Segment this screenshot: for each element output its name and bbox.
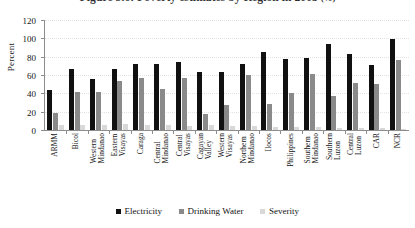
y-axis-tick-label: 0 — [32, 127, 37, 136]
x-axis-label-cell: ARMM — [44, 133, 65, 195]
bar — [145, 125, 150, 131]
bar — [252, 126, 257, 130]
x-axis-label-cell: Philippines — [280, 133, 301, 195]
y-axis-tick-label: 40 — [27, 90, 36, 99]
bar-group — [366, 20, 387, 130]
chart-title-text: Figure 5.6: Poverty estimates by Region … — [80, 0, 318, 3]
bar — [80, 125, 85, 131]
bar — [401, 129, 406, 130]
bar-group — [66, 20, 87, 130]
bar — [47, 90, 52, 130]
x-axis-label: CagayanValley — [197, 133, 212, 159]
bar — [209, 125, 214, 130]
bar — [359, 128, 364, 130]
bar — [316, 127, 321, 130]
chart-title: Figure 5.6: Poverty estimates by Region … — [0, 0, 415, 3]
y-axis-tick-label: 20 — [27, 108, 36, 117]
x-axis-label: NCR — [394, 133, 402, 148]
x-axis-label: SouthernMindanao — [305, 133, 320, 163]
x-axis-label-cell: SouthernLuzon — [323, 133, 344, 195]
x-axis-label-cell: CAR — [366, 133, 387, 195]
bar — [289, 93, 294, 130]
x-axis-label: ARMM — [51, 133, 59, 157]
legend-label: Electricity — [125, 206, 162, 216]
bar — [176, 62, 181, 130]
bar — [59, 125, 64, 131]
bar — [96, 92, 101, 131]
plot-area: 020406080100120 — [44, 20, 409, 131]
bar-group — [109, 20, 130, 130]
x-axis-label-cell: NorthernMindanao — [237, 133, 258, 195]
bar — [240, 64, 245, 130]
chart-legend: ElectricityDrinking WaterSeverity — [0, 206, 415, 216]
bar — [182, 78, 187, 130]
y-axis-tick: 0 — [41, 130, 45, 131]
legend-swatch-icon — [179, 209, 184, 214]
bar — [139, 78, 144, 130]
x-axis-label-cell: CentralVisayas — [173, 133, 194, 195]
x-axis-labels: ARMMBicolWesternMindanaoEasternVisayasCa… — [44, 133, 409, 195]
bar — [267, 104, 272, 130]
bar — [90, 79, 95, 130]
bar-group — [388, 20, 409, 130]
x-axis-label-cell: Bicol — [65, 133, 86, 195]
x-axis-label-cell: CentralMindanao — [151, 133, 172, 195]
x-axis-label: WesternMindanao — [90, 133, 105, 163]
bar — [203, 114, 208, 131]
bar — [396, 60, 401, 130]
bar-group — [345, 20, 366, 130]
bar — [337, 128, 342, 130]
legend-swatch-icon — [116, 209, 121, 214]
x-axis-label: Bicol — [72, 133, 80, 149]
bar-group — [195, 20, 216, 130]
x-axis-label: SouthernLuzon — [326, 133, 341, 160]
bar — [160, 89, 165, 130]
bar — [353, 83, 358, 130]
bar — [331, 96, 336, 130]
bar — [294, 127, 299, 130]
x-axis-label-cell: SouthernMindanao — [302, 133, 323, 195]
y-axis-tick-label: 60 — [27, 72, 36, 81]
bar — [197, 72, 202, 130]
bar — [69, 69, 74, 130]
x-axis-label: CentralVisayas — [176, 133, 191, 156]
bar-group — [173, 20, 194, 130]
x-axis-label: EasternVisayas — [112, 133, 127, 156]
bar-group — [216, 20, 237, 130]
bar-group — [238, 20, 259, 130]
x-axis-label: NorthernMindanao — [240, 133, 255, 163]
bar — [53, 113, 58, 130]
bar — [283, 59, 288, 131]
bar — [75, 92, 80, 131]
bar — [224, 105, 229, 130]
bar — [123, 124, 128, 130]
x-axis-label-cell: WesternVisayas — [216, 133, 237, 195]
x-axis-label-cell: Ilocos — [259, 133, 280, 195]
legend-label: Drinking Water — [188, 206, 244, 216]
bar — [369, 65, 374, 130]
x-axis-label: WesternVisayas — [219, 133, 234, 157]
bar-groups — [45, 20, 409, 130]
bar — [102, 125, 107, 131]
bar-group — [131, 20, 152, 130]
bar — [374, 84, 379, 130]
bar — [261, 52, 266, 130]
y-axis-tick-label: 80 — [27, 53, 36, 62]
bar — [219, 72, 224, 130]
x-axis-label: Ilocos — [266, 133, 274, 151]
y-axis-tick-label: 120 — [23, 17, 37, 26]
bar-group — [302, 20, 323, 130]
bar — [117, 81, 122, 130]
legend-item: Electricity — [116, 206, 162, 216]
bar — [380, 128, 385, 130]
bar-group — [45, 20, 66, 130]
bar — [390, 39, 395, 130]
bar-group — [88, 20, 109, 130]
x-axis-label-cell: NCR — [388, 133, 409, 195]
bar-group — [152, 20, 173, 130]
bar-group — [280, 20, 301, 130]
x-axis-label-cell: CentralLuzon — [345, 133, 366, 195]
bar — [154, 64, 159, 130]
bar-group — [323, 20, 344, 130]
bar — [310, 74, 315, 130]
